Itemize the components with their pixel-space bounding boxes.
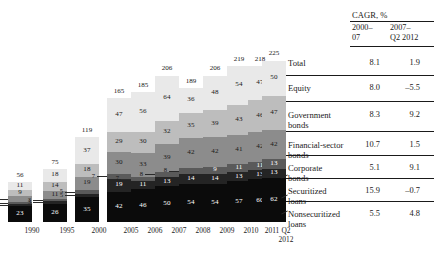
bar-segment: 29 — [107, 132, 131, 153]
row-label: Financial-sectorbonds — [288, 140, 350, 160]
bar-segment: 30 — [131, 132, 155, 153]
segment-value: 39 — [155, 154, 179, 161]
bar-segment: 37 — [75, 137, 99, 163]
row-label-line2: loans — [288, 219, 306, 229]
segment-value: 42 — [179, 149, 203, 156]
bar-segment: 14 — [203, 174, 227, 184]
col1-line2: 07 — [352, 33, 360, 42]
segment-value: 56 — [131, 108, 155, 115]
row-label: Total — [288, 58, 350, 68]
bar-segment: 35 — [179, 113, 203, 138]
stacked-bar: 56303371146 — [131, 92, 155, 222]
bar-segment: 26 — [43, 204, 67, 222]
bar-segment: 50 — [155, 186, 179, 222]
row-value-cagr-2007-q2-2012: 9.1 — [386, 163, 420, 172]
table-row: Nonsecuritizedloans5.54.8 — [286, 209, 436, 210]
header-rule-bottom — [350, 46, 434, 47]
segment-value: 26 — [43, 209, 67, 216]
segment-value: 46 — [131, 202, 155, 209]
segment-value: 42 — [203, 149, 227, 156]
table-header-col2: 2007– Q2 2012 — [390, 23, 436, 43]
callout-label: 5 — [49, 192, 63, 199]
segment-value: 11 — [131, 182, 155, 189]
stacked-bar: 3718195535 — [75, 137, 99, 222]
table-row-divider — [286, 75, 434, 76]
col1-line1: 2000– — [352, 23, 372, 32]
table-row: Corporatebonds5.19.1 — [286, 163, 436, 164]
bar-segment: 48 — [203, 76, 227, 110]
segment-value: 19 — [75, 180, 99, 187]
segment-value: 35 — [75, 206, 99, 213]
row-value-cagr-2000-07: 10.7 — [350, 140, 380, 149]
bar-segment: 30 — [107, 152, 131, 173]
bar-segment: 39 — [203, 110, 227, 138]
segment-value: 30 — [131, 139, 155, 146]
row-value-cagr-2000-07: 8.3 — [350, 110, 380, 119]
bar-segment: 54 — [179, 184, 203, 222]
col2-line2: Q2 2012 — [390, 33, 418, 42]
bar-segment: 42 — [203, 137, 227, 167]
stacked-bar: 36354281454 — [179, 88, 203, 222]
row-label-line1: Corporate — [288, 163, 322, 173]
row-label: Corporatebonds — [288, 163, 350, 183]
bar-total-label: 75 — [36, 159, 74, 166]
row-label: Nonsecuritizedloans — [288, 209, 350, 229]
table-row-divider — [286, 155, 434, 156]
row-label-line1: Nonsecuritized — [288, 209, 340, 219]
bar-segment: 11 — [131, 181, 155, 189]
segment-value: 42 — [262, 141, 286, 148]
callout-leader-line — [65, 192, 75, 193]
row-label-line1: Securitized — [288, 186, 327, 196]
row-value-cagr-2000-07: 5.1 — [350, 163, 380, 172]
callout-leader-line — [0, 199, 8, 200]
stacked-bar: 64323981350 — [155, 76, 179, 222]
segment-value: 14 — [179, 175, 203, 182]
bar-segment: 32 — [155, 121, 179, 144]
row-label-line2: bonds — [288, 120, 309, 130]
callout-leader-line — [65, 195, 75, 196]
row-label-line1: Government — [288, 110, 331, 120]
segment-value: 50 — [262, 75, 286, 82]
bar-segment: 13 — [155, 177, 179, 186]
table-row-divider — [286, 101, 434, 102]
bar-segment: 50 — [262, 61, 286, 97]
header-rule-top — [350, 21, 434, 22]
row-value-cagr-2007-q2-2012: 1.9 — [386, 58, 420, 67]
callout-leader-line — [33, 202, 43, 203]
table-header-title: CAGR, % — [352, 10, 387, 20]
table-row: Equity8.0–5.5 — [286, 83, 436, 84]
callout-leader-line — [145, 174, 155, 175]
segment-value: 64 — [155, 95, 179, 102]
segment-value: 32 — [155, 129, 179, 136]
bar-segment: 47 — [262, 96, 286, 129]
callout-label: 7 — [81, 173, 95, 180]
row-value-cagr-2007-q2-2012: 4.8 — [386, 209, 420, 218]
row-value-cagr-2007-q2-2012: 1.5 — [386, 140, 420, 149]
bar-segment: 42 — [107, 192, 131, 222]
segment-value: 35 — [179, 122, 203, 129]
stacked-bar: 48394291454 — [203, 76, 227, 222]
segment-value: 23 — [8, 210, 32, 217]
table-row: Governmentbonds8.39.2 — [286, 110, 436, 111]
callout-label: 3 — [17, 199, 31, 206]
bar-segment: 56 — [131, 92, 155, 132]
x-axis-label-line: 1990 — [12, 226, 52, 235]
segment-value: 50 — [155, 201, 179, 208]
segment-value: 18 — [43, 172, 67, 179]
callout-label: 8 — [153, 167, 167, 174]
callout-leader-line — [121, 179, 131, 180]
row-value-cagr-2000-07: 8.1 — [350, 58, 380, 67]
segment-value: 36 — [179, 97, 203, 104]
stacked-bar: 47293071942 — [107, 98, 131, 222]
table-row-divider — [286, 131, 434, 132]
row-value-cagr-2007-q2-2012: –0.7 — [386, 186, 420, 195]
plot-area: 1198322356181411332675371819553511947293… — [0, 0, 284, 222]
bar-segment: 47 — [107, 98, 131, 131]
segment-value: 13 — [155, 178, 179, 185]
table-row-divider — [286, 178, 434, 179]
bar-segment: 13 — [262, 159, 286, 168]
row-label: Securitizedloans — [288, 186, 350, 206]
segment-value: 39 — [203, 120, 227, 127]
segment-value: 54 — [203, 199, 227, 206]
segment-value: 48 — [203, 89, 227, 96]
